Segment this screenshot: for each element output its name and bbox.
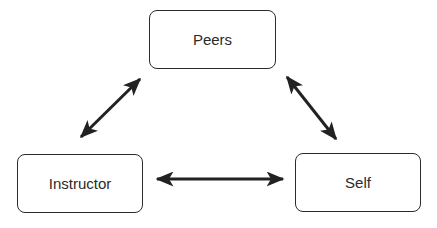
arrow-instructor-peers — [81, 79, 140, 137]
node-instructor: Instructor — [17, 154, 143, 213]
node-peers: Peers — [149, 10, 276, 69]
node-self: Self — [295, 153, 421, 212]
arrow-peers-self — [287, 77, 336, 139]
node-self-label: Self — [345, 174, 371, 191]
node-instructor-label: Instructor — [49, 175, 112, 192]
node-peers-label: Peers — [193, 31, 232, 48]
